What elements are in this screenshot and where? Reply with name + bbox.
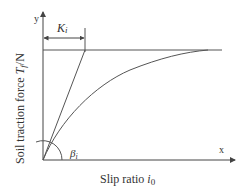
x-label-text: Slip ratio bbox=[100, 172, 147, 186]
initial-tangent-line bbox=[43, 50, 85, 160]
beta-label: βi bbox=[69, 147, 78, 161]
x-axis-label: Slip ratio i0 bbox=[100, 172, 156, 187]
traction-slip-curve bbox=[43, 50, 208, 160]
x-label-subscript: 0 bbox=[151, 177, 156, 187]
y-label-unit: /N bbox=[13, 53, 27, 65]
ki-subscript: i bbox=[65, 25, 68, 35]
y-label-text: Soil traction force bbox=[13, 74, 27, 164]
x-axis-letter: x bbox=[219, 144, 224, 155]
beta-subscript: i bbox=[75, 152, 77, 161]
y-axis-letter: y bbox=[34, 13, 39, 24]
traction-slip-diagram: y x Ki βi Slip ratio i0 Soil traction fo… bbox=[0, 0, 246, 192]
ki-label: Ki bbox=[56, 21, 68, 35]
y-axis-label: Soil traction force Tf/N bbox=[13, 53, 28, 164]
